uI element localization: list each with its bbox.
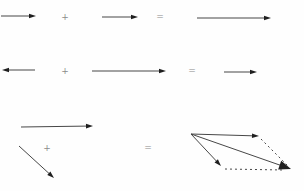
vector-addition-figure: +=+=+= — [0, 0, 304, 191]
row2-vector-a-leftward — [2, 68, 35, 73]
row1-vector-a-arrowhead — [29, 14, 36, 19]
row3-vector-a-horizontal-arrowhead — [86, 124, 93, 129]
row2-resultant-vector-arrowhead — [250, 70, 257, 75]
row2-vector-b — [92, 69, 166, 74]
parallelogram-top-vector-arrowhead — [252, 133, 259, 138]
parallelogram-resultant-vector-arrowhead — [278, 161, 291, 170]
parallelogram-dashed-bottom-side — [225, 169, 284, 170]
row3-vector-a-horizontal — [21, 124, 93, 129]
row2-vector-b-arrowhead — [159, 69, 166, 74]
vector-diagram: +=+=+= — [0, 0, 304, 191]
row3-plus-sign: + — [43, 143, 51, 153]
row2-plus-sign: + — [61, 66, 69, 76]
row1-plus-sign: + — [61, 12, 69, 22]
row1-vector-b — [102, 15, 138, 20]
row2-resultant-vector — [224, 70, 257, 75]
row2-vector-a-leftward-arrowhead — [2, 68, 9, 73]
parallelogram-resultant-vector — [191, 134, 291, 169]
row1-resultant-vector — [197, 16, 271, 21]
row1-vector-a — [1, 14, 36, 19]
parallelogram-dashed-right-side — [261, 139, 288, 166]
row1-equals-sign: = — [156, 12, 164, 22]
row1-vector-b-arrowhead — [131, 15, 138, 20]
row3-equals-sign: = — [144, 143, 152, 153]
row1-resultant-vector-arrowhead — [264, 16, 271, 21]
row2-equals-sign: = — [188, 66, 196, 76]
